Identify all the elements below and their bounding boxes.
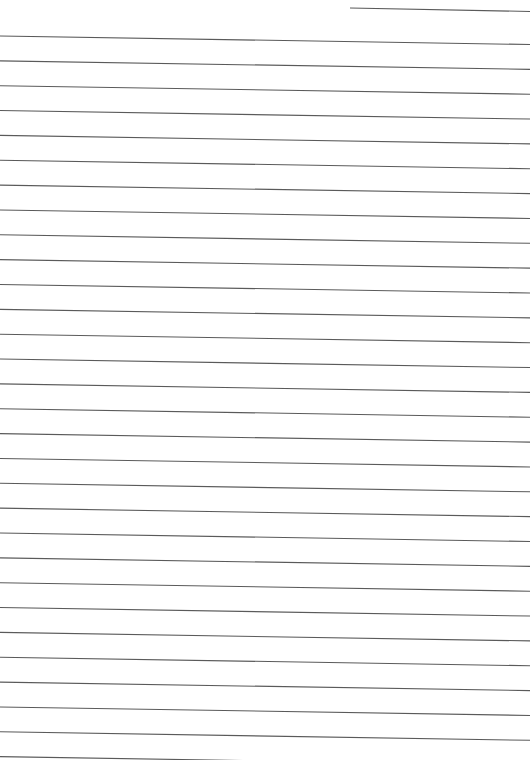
- ruled-line: [0, 160, 530, 169]
- ruled-line: [0, 135, 530, 144]
- ruled-line: [0, 235, 530, 244]
- ruled-line: [0, 409, 530, 418]
- ruled-line: [0, 707, 530, 716]
- ruled-line: [0, 61, 530, 70]
- ruled-line: [0, 384, 530, 393]
- ruled-line: [0, 682, 530, 691]
- ruled-line: [0, 210, 530, 219]
- ruled-line: [0, 111, 530, 120]
- ruled-line: [0, 285, 530, 294]
- ruled-line: [0, 583, 530, 592]
- ruled-line: [0, 185, 530, 194]
- ruled-line: [0, 508, 530, 517]
- ruled-line: [0, 657, 530, 666]
- ruled-line: [0, 608, 530, 617]
- header-date-line: [350, 8, 530, 12]
- ruled-line: [0, 732, 530, 741]
- ruled-line: [0, 309, 530, 318]
- ruled-line: [0, 86, 530, 95]
- ruled-line: [0, 334, 530, 343]
- ruled-line-group: [0, 36, 530, 760]
- ruled-line: [0, 558, 530, 567]
- lined-paper-sheet: [0, 0, 530, 760]
- ruled-line: [0, 632, 530, 641]
- ruled-lines: [0, 0, 530, 760]
- ruled-line: [0, 36, 530, 45]
- ruled-line: [0, 359, 530, 368]
- ruled-line: [0, 260, 530, 269]
- ruled-line: [0, 483, 530, 492]
- ruled-line: [0, 458, 530, 467]
- ruled-line: [0, 533, 530, 542]
- ruled-line: [0, 757, 530, 760]
- ruled-line: [0, 434, 530, 443]
